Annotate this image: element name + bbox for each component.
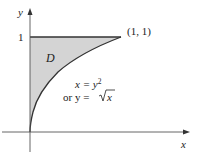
- x-axis-arrow-icon: [183, 130, 190, 135]
- equation-1: x = y2: [74, 77, 102, 90]
- point-label: (1, 1): [127, 25, 151, 38]
- eq1-text: x = y: [74, 78, 98, 90]
- equation-2-sqrt-arg: x: [106, 91, 112, 103]
- region-diagram: y x 1 D (1, 1) x = y2 or y = x: [0, 0, 200, 153]
- y-axis-label: y: [17, 6, 23, 18]
- y-tick-1: 1: [18, 31, 24, 43]
- equation-2-prefix: or y =: [63, 91, 89, 103]
- x-axis-label: x: [180, 138, 186, 150]
- y-axis-arrow-icon: [28, 8, 33, 15]
- region-label: D: [45, 51, 55, 65]
- eq1-exponent: 2: [98, 77, 102, 86]
